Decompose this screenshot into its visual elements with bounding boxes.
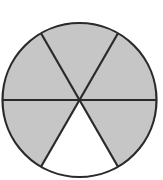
fraction-circle-diagram: [0, 0, 163, 180]
